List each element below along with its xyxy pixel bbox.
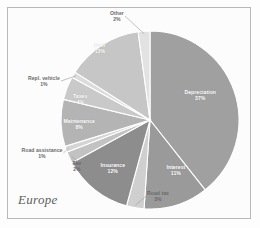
chart-caption: Europe: [18, 192, 58, 208]
pie-label-fee: Fee2%: [73, 160, 82, 173]
pie-label-repl-vehicle: Repl. vehicle1%: [28, 75, 60, 88]
pie-label-value-road-assistance: 1%: [22, 153, 63, 160]
pie-label-value-fee: 2%: [73, 166, 82, 173]
pie-label-road-tax: Road tax3%: [147, 190, 169, 203]
pie-label-value-interest: 11%: [167, 170, 186, 177]
pie-label-value-other: 2%: [110, 16, 124, 23]
pie-label-value-insurance: 12%: [101, 168, 126, 175]
pie-label-maintenance: Maintenance8%: [64, 118, 95, 131]
pie-label-value-maintenance: 8%: [64, 124, 95, 131]
pie-label-other: Other2%: [110, 10, 124, 23]
leader-line-other: [125, 16, 144, 34]
pie-label-value-fuel: 13%: [95, 48, 106, 55]
pie-label-interest: Interest11%: [167, 164, 186, 177]
pie-label-value-road-tax: 3%: [147, 196, 169, 203]
pie-chart-figure: Depreciation37%Interest11%Road tax3%Insu…: [0, 0, 260, 228]
pie-label-value-taxes: 4%: [73, 99, 87, 106]
pie-label-depreciation: Depreciation37%: [185, 89, 216, 102]
pie-label-fuel: Fuel13%: [95, 42, 106, 55]
pie-label-value-depreciation: 37%: [185, 95, 216, 102]
pie-label-road-assistance: Road assistance1%: [22, 147, 63, 160]
pie-label-taxes: Taxes4%: [73, 93, 87, 106]
pie-label-insurance: Insurance12%: [101, 162, 126, 175]
pie-label-value-repl-vehicle: 1%: [28, 81, 60, 88]
